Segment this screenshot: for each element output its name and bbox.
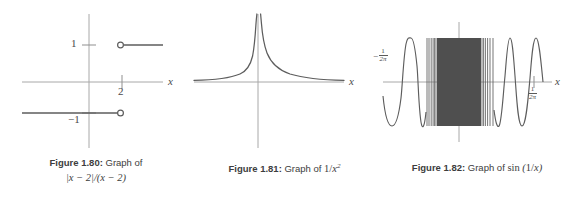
plot-sin-one-over-x (377, 0, 577, 160)
caption-formula-exponent: 2 (337, 161, 341, 169)
caption-label: Figure 1.81: (229, 163, 282, 174)
x-axis-label: x (168, 75, 173, 87)
caption-formula-function: sin (507, 162, 519, 173)
tick-label-x-2: 2 (118, 85, 124, 97)
caption-text: Graph of (106, 157, 143, 168)
open-circle-upper (118, 42, 124, 48)
figure-row: x 1 2 −1 Figure 1.80: Graph of |x − 2|/(… (0, 0, 577, 211)
figure-1-82: x −12π 12π Figure 1.82: Graph of sin (1/… (377, 0, 577, 211)
open-circle-lower (118, 110, 124, 116)
figure-1-80: x 1 2 −1 Figure 1.80: Graph of |x − 2|/(… (0, 0, 192, 211)
caption-label: Figure 1.82: (412, 162, 465, 173)
figure-1-82-caption: Figure 1.82: Graph of sin (1/x) (377, 160, 577, 175)
caption-text: Graph of (468, 162, 505, 173)
tick-label-y-1: 1 (71, 37, 77, 49)
figure-1-80-caption: Figure 1.80: Graph of |x − 2|/(x − 2) (0, 156, 192, 185)
fraction-1-over-2pi-right: 12π (528, 86, 537, 102)
caption-formula-argument: (1/x) (522, 162, 542, 173)
dense-band-core (437, 38, 481, 126)
caption-label: Figure 1.80: (50, 157, 103, 168)
fraction-denominator: 2π (379, 56, 388, 63)
x-axis-label: x (349, 75, 354, 87)
caption-formula: |x − 2|/(x − 2) (0, 170, 192, 185)
caption-text: Graph of (284, 163, 321, 174)
curve-left-branch (194, 14, 257, 80)
x-axis-label: x (555, 75, 560, 87)
plot-step-function (0, 0, 192, 156)
tick-label-y-neg1: −1 (68, 113, 80, 125)
figure-1-81-caption: Figure 1.81: Graph of 1/x2 (192, 160, 377, 176)
figure-1-81: x Figure 1.81: Graph of 1/x2 (192, 0, 377, 211)
fraction-denominator: 2π (528, 94, 537, 101)
curve-right-branch (261, 14, 344, 80)
tick-label-x-1-over-2pi: 12π (528, 86, 537, 102)
tick-label-x-neg-1-over-2pi: −12π (373, 48, 388, 64)
fraction-1-over-2pi-left: 12π (379, 48, 388, 64)
